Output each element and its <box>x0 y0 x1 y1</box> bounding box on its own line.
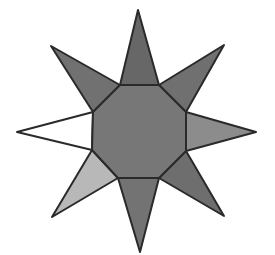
octagon-center <box>92 85 186 178</box>
star-svg <box>0 0 275 255</box>
star-ray-top <box>120 10 159 85</box>
star-ray-left <box>17 112 93 150</box>
star-diagram <box>0 0 275 255</box>
star-ray-bottom <box>118 178 159 252</box>
star-ray-right <box>186 112 256 151</box>
